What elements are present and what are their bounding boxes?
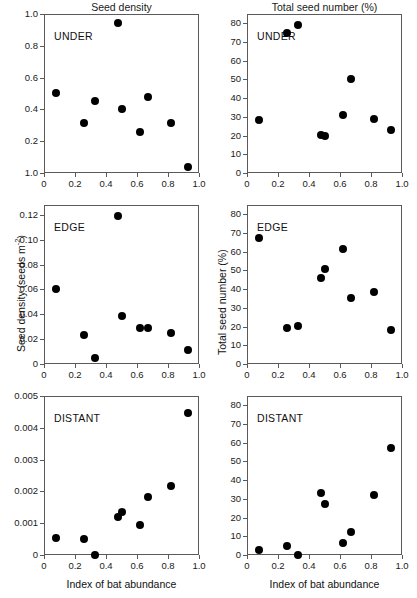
x-tick-label: 0.4 xyxy=(91,369,121,380)
y-tick-label: 80 xyxy=(199,17,241,28)
data-point xyxy=(339,539,347,547)
data-point xyxy=(136,521,144,529)
x-tick-label: 0.4 xyxy=(294,178,324,189)
data-point xyxy=(52,534,60,542)
x-tick-mark xyxy=(278,173,279,177)
x-tick-mark xyxy=(168,555,169,559)
x-tick-label: 0.4 xyxy=(294,560,324,571)
x-tick-label: 0.8 xyxy=(356,178,386,189)
data-point xyxy=(118,312,126,320)
x-tick-mark xyxy=(402,555,403,559)
y-tick-mark xyxy=(40,78,44,79)
y-tick-label: 40 xyxy=(199,92,241,103)
x-tick-label: 0 xyxy=(232,560,262,571)
data-point xyxy=(91,354,99,362)
x-tick-label: 0.4 xyxy=(91,560,121,571)
panel-annotation-middle-right: EDGE xyxy=(257,221,288,233)
panel-annotation-middle-left: EDGE xyxy=(54,221,85,233)
x-tick-label: 0.2 xyxy=(60,369,90,380)
y-tick-label: 0 xyxy=(199,167,241,178)
y-tick-label: 20 xyxy=(199,512,241,523)
x-tick-mark xyxy=(278,364,279,368)
x-tick-label: 0.6 xyxy=(325,178,355,189)
x-tick-mark xyxy=(402,173,403,177)
x-tick-label: 0.6 xyxy=(325,560,355,571)
y-tick-label: 0.6 xyxy=(0,72,38,83)
y-tick-mark xyxy=(243,405,247,406)
y-tick-mark xyxy=(243,270,247,271)
y-tick-mark xyxy=(243,154,247,155)
data-point xyxy=(294,322,302,330)
x-tick-label: 0 xyxy=(232,178,262,189)
y-tick-mark xyxy=(243,252,247,253)
y-tick-label: 60 xyxy=(199,437,241,448)
y-tick-mark xyxy=(243,461,247,462)
data-point xyxy=(347,294,355,302)
column-title-left: Seed density xyxy=(44,1,199,13)
x-tick-mark xyxy=(371,173,372,177)
data-point xyxy=(294,551,302,559)
y-tick-label: 30 xyxy=(199,111,241,122)
x-tick-label: 0.6 xyxy=(122,178,152,189)
y-tick-mark xyxy=(243,98,247,99)
y-tick-label: 40 xyxy=(199,474,241,485)
y-tick-label: 70 xyxy=(199,36,241,47)
y-tick-label: 0.001 xyxy=(0,517,38,528)
y-tick-label: 10 xyxy=(199,530,241,541)
y-tick-label: 0.003 xyxy=(0,454,38,465)
x-tick-label: 0.2 xyxy=(263,369,293,380)
x-tick-mark xyxy=(75,173,76,177)
y-tick-mark xyxy=(243,518,247,519)
x-tick-label: 0.6 xyxy=(122,369,152,380)
data-point xyxy=(321,132,329,140)
middle-left-y-axis-label: Seed density (seeds m-2) xyxy=(13,235,27,352)
x-tick-mark xyxy=(340,364,341,368)
x-tick-mark xyxy=(247,173,248,177)
x-tick-mark xyxy=(75,364,76,368)
data-point xyxy=(91,551,99,559)
y-tick-mark xyxy=(243,536,247,537)
y-tick-label: 1.0 xyxy=(0,167,38,178)
x-tick-label: 0.4 xyxy=(294,369,324,380)
x-tick-mark xyxy=(168,173,169,177)
x-tick-mark xyxy=(309,364,310,368)
x-tick-mark xyxy=(137,555,138,559)
panel-annotation-top-left: UNDER xyxy=(54,30,93,42)
data-point xyxy=(144,493,152,501)
data-point xyxy=(339,245,347,253)
x-tick-mark xyxy=(106,555,107,559)
y-tick-mark xyxy=(40,523,44,524)
y-tick-mark xyxy=(243,289,247,290)
data-point xyxy=(118,508,126,516)
y-tick-mark xyxy=(243,233,247,234)
x-tick-label: 0.8 xyxy=(356,369,386,380)
y-tick-mark xyxy=(243,480,247,481)
x-tick-mark xyxy=(247,555,248,559)
y-tick-label: 0 xyxy=(0,358,38,369)
x-tick-label: 1.0 xyxy=(387,560,417,571)
y-tick-mark xyxy=(40,46,44,47)
x-tick-label: 0.8 xyxy=(153,369,183,380)
y-tick-mark xyxy=(40,14,44,15)
x-tick-mark xyxy=(278,555,279,559)
data-point xyxy=(283,542,291,550)
y-tick-mark xyxy=(243,79,247,80)
x-tick-mark xyxy=(44,364,45,368)
y-tick-label: 0.004 xyxy=(0,422,38,433)
x-tick-label: 0.6 xyxy=(122,560,152,571)
y-tick-mark xyxy=(40,396,44,397)
data-point xyxy=(321,265,329,273)
y-tick-label: 1.0 xyxy=(0,8,38,19)
data-point xyxy=(283,29,291,37)
y-tick-label: 0 xyxy=(199,549,241,560)
data-point xyxy=(118,105,126,113)
x-tick-label: 0 xyxy=(29,178,59,189)
x-tick-mark xyxy=(340,173,341,177)
y-tick-mark xyxy=(243,136,247,137)
y-tick-mark xyxy=(40,460,44,461)
y-tick-mark xyxy=(243,443,247,444)
x-tick-label: 0 xyxy=(29,560,59,571)
data-point xyxy=(91,97,99,105)
y-tick-label: 30 xyxy=(199,493,241,504)
x-tick-mark xyxy=(106,173,107,177)
